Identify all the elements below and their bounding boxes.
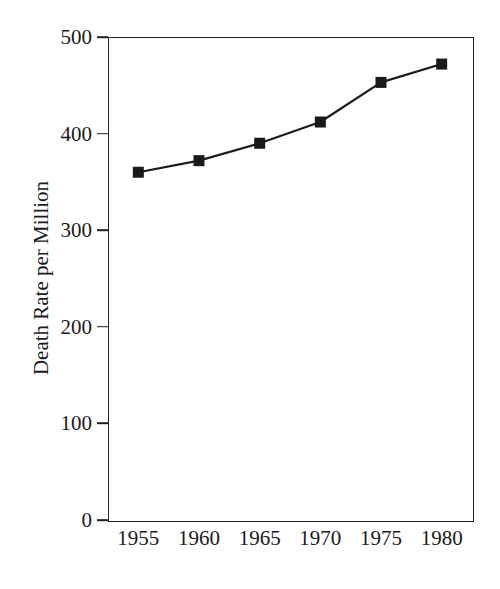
y-tick-label: 400 bbox=[48, 123, 92, 144]
y-tick-label: 0 bbox=[48, 510, 92, 531]
chart-figure: Death Rate per Million 0100200300400500 … bbox=[0, 0, 500, 589]
series-line bbox=[138, 64, 441, 172]
data-point-marker bbox=[254, 138, 265, 149]
y-tick-mark bbox=[97, 519, 108, 521]
y-tick-mark bbox=[97, 423, 108, 425]
y-tick-label: 200 bbox=[48, 316, 92, 337]
data-point-marker bbox=[376, 77, 387, 88]
data-point-marker bbox=[315, 117, 326, 128]
data-point-marker bbox=[194, 155, 205, 166]
data-point-marker bbox=[436, 59, 447, 70]
y-tick-mark bbox=[97, 326, 108, 328]
y-tick-label: 100 bbox=[48, 413, 92, 434]
y-tick-label: 500 bbox=[48, 27, 92, 48]
y-axis-tick-labels: 0100200300400500 bbox=[44, 37, 92, 520]
y-tick-mark bbox=[97, 229, 108, 231]
y-tick-mark bbox=[97, 36, 108, 38]
data-series-layer bbox=[108, 37, 472, 520]
x-tick-label: 1980 bbox=[402, 528, 482, 549]
data-point-marker bbox=[133, 167, 144, 178]
y-tick-label: 300 bbox=[48, 220, 92, 241]
y-tick-mark bbox=[97, 133, 108, 135]
x-axis-tick-labels: 195519601965197019751980 bbox=[108, 528, 472, 558]
